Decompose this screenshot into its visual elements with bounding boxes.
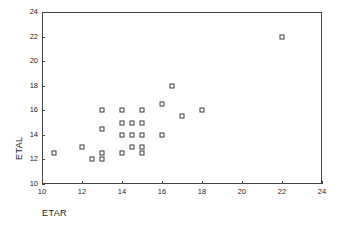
x-tick-mark (242, 181, 243, 184)
data-point-marker (140, 120, 145, 125)
data-point-marker (120, 132, 125, 137)
x-tick-mark (282, 181, 283, 184)
y-tick-label: 14 (22, 131, 38, 139)
x-tick-mark (162, 181, 163, 184)
data-point-marker (140, 151, 145, 156)
data-point-marker (170, 83, 175, 88)
data-point-marker (100, 126, 105, 131)
data-point-marker (52, 151, 57, 156)
x-tick-label: 14 (118, 188, 126, 196)
x-tick-mark (322, 181, 323, 184)
x-tick-label: 12 (78, 188, 86, 196)
x-tick-label: 20 (238, 188, 246, 196)
data-point-marker (160, 132, 165, 137)
data-point-marker (140, 132, 145, 137)
x-tick-label: 22 (278, 188, 286, 196)
y-tick-mark (42, 86, 45, 87)
data-point-marker (200, 108, 205, 113)
y-tick-mark (42, 159, 45, 160)
y-axis-label: ETAL (14, 137, 24, 160)
data-point-marker (160, 102, 165, 107)
y-tick-mark (42, 61, 45, 62)
data-point-marker (80, 145, 85, 150)
data-point-marker (100, 151, 105, 156)
y-tick-mark (42, 110, 45, 111)
data-point-marker (130, 132, 135, 137)
y-tick-label: 24 (22, 8, 38, 16)
y-tick-mark (42, 12, 45, 13)
x-tick-mark (82, 181, 83, 184)
y-tick-mark (42, 184, 45, 185)
y-tick-label: 16 (22, 106, 38, 114)
data-point-marker (140, 145, 145, 150)
x-axis-label: ETAR (42, 208, 67, 218)
data-point-marker (120, 151, 125, 156)
y-tick-label: 18 (22, 82, 38, 90)
y-tick-mark (42, 37, 45, 38)
data-point-marker (100, 157, 105, 162)
data-point-marker (280, 34, 285, 39)
data-point-marker (120, 108, 125, 113)
x-tick-label: 18 (198, 188, 206, 196)
data-point-marker (90, 157, 95, 162)
data-point-marker (120, 120, 125, 125)
x-tick-label: 24 (318, 188, 326, 196)
data-point-marker (140, 108, 145, 113)
scatter-plot-figure: 1012141618202224 1012141618202224 ETAR E… (0, 0, 340, 237)
data-point-marker (130, 145, 135, 150)
x-tick-label: 16 (158, 188, 166, 196)
x-tick-label: 10 (38, 188, 46, 196)
data-point-marker (100, 108, 105, 113)
y-tick-label: 12 (22, 155, 38, 163)
x-tick-mark (202, 181, 203, 184)
x-tick-mark (122, 181, 123, 184)
y-tick-mark (42, 135, 45, 136)
y-tick-label: 10 (22, 180, 38, 188)
y-tick-label: 20 (22, 57, 38, 65)
y-tick-label: 22 (22, 33, 38, 41)
data-point-marker (130, 120, 135, 125)
data-point-marker (180, 114, 185, 119)
